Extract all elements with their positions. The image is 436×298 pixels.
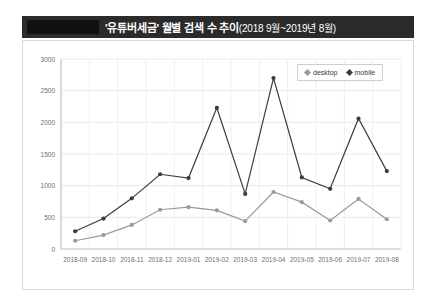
data-point-mobile[interactable] xyxy=(101,217,105,221)
y-axis-tick-label: 2500 xyxy=(41,87,56,94)
data-point-desktop[interactable] xyxy=(101,233,105,237)
diamond-marker-icon xyxy=(304,69,311,76)
data-point-desktop[interactable] xyxy=(215,208,219,212)
x-axis-tick-label: 2019-05 xyxy=(290,256,314,263)
data-point-mobile[interactable] xyxy=(328,187,332,191)
data-point-desktop[interactable] xyxy=(300,200,304,204)
x-axis-tick-label: 2018-10 xyxy=(92,256,116,263)
y-axis-tick-label: 3000 xyxy=(41,56,56,63)
data-point-mobile[interactable] xyxy=(243,192,247,196)
x-axis-tick-label: 2019-03 xyxy=(233,256,257,263)
x-axis-tick-label: 2018-11 xyxy=(120,256,144,263)
y-axis-tick-label: 500 xyxy=(44,214,55,221)
legend-item-desktop[interactable]: desktop xyxy=(305,69,338,76)
data-point-desktop[interactable] xyxy=(385,217,389,221)
x-axis-tick-label: 2019-08 xyxy=(375,256,399,263)
x-axis-tick-label: 2019-06 xyxy=(318,256,342,263)
data-point-desktop[interactable] xyxy=(356,197,360,201)
x-axis-tick-label: 2019-01 xyxy=(177,256,201,263)
chart-legend[interactable]: desktopmobile xyxy=(297,64,383,81)
x-axis-tick-label: 2018-12 xyxy=(148,256,172,263)
data-point-mobile[interactable] xyxy=(300,175,304,179)
diamond-marker-icon xyxy=(345,69,352,76)
x-axis-tick-label: 2018-09 xyxy=(63,256,87,263)
page-title-main: '유튜버세금' 월별 검색 수 추이 xyxy=(105,22,239,34)
data-point-mobile[interactable] xyxy=(186,176,190,180)
data-point-mobile[interactable] xyxy=(73,229,77,233)
legend-item-mobile[interactable]: mobile xyxy=(347,69,376,76)
data-point-desktop[interactable] xyxy=(243,219,247,223)
page-title-range: (2018 9월~2019년 8월) xyxy=(239,23,336,34)
data-point-mobile[interactable] xyxy=(385,169,389,173)
data-point-desktop[interactable] xyxy=(130,223,134,227)
y-axis-tick-label: 1500 xyxy=(41,151,56,158)
y-axis-tick-label: 2000 xyxy=(41,119,56,126)
data-point-desktop[interactable] xyxy=(271,190,275,194)
legend-label: desktop xyxy=(313,69,338,76)
y-axis-tick-label: 1000 xyxy=(41,182,56,189)
screenshot-root: '유튜버세금' 월별 검색 수 추이(2018 9월~2019년 8월) 050… xyxy=(0,0,436,298)
redacted-logo-block xyxy=(27,20,99,34)
data-point-mobile[interactable] xyxy=(271,76,275,80)
data-point-mobile[interactable] xyxy=(158,172,162,176)
data-point-mobile[interactable] xyxy=(356,116,360,120)
chart-title-bar: '유튜버세금' 월별 검색 수 추이(2018 9월~2019년 8월) xyxy=(22,16,414,38)
page-title: '유튜버세금' 월별 검색 수 추이(2018 9월~2019년 8월) xyxy=(105,19,336,35)
data-point-mobile[interactable] xyxy=(215,106,219,110)
x-axis-tick-label: 2019-02 xyxy=(205,256,229,263)
data-point-desktop[interactable] xyxy=(328,218,332,222)
x-axis-tick-label: 2019-04 xyxy=(262,256,286,263)
data-point-desktop[interactable] xyxy=(186,205,190,209)
x-axis-tick-label: 2019-07 xyxy=(347,256,371,263)
legend-label: mobile xyxy=(355,69,376,76)
data-point-desktop[interactable] xyxy=(158,208,162,212)
y-axis-tick-label: 0 xyxy=(51,246,55,253)
data-point-mobile[interactable] xyxy=(130,196,134,200)
data-point-desktop[interactable] xyxy=(73,239,77,243)
